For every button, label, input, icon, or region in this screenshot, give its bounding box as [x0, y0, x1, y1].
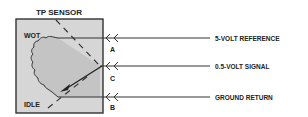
wire-label-ground: GROUND RETURN [215, 94, 273, 101]
terminal-a-label: A [110, 46, 115, 53]
terminal-a-wire [100, 34, 210, 42]
diagram-title: TP SENSOR [36, 8, 82, 17]
terminal-b-label: B [110, 104, 115, 111]
terminal-c-wire [100, 62, 210, 70]
wot-label: WOT [24, 32, 41, 39]
wire-label-5v-reference: 5-VOLT REFERENCE [215, 35, 280, 42]
terminal-b-wire [100, 93, 210, 101]
idle-label: IDLE [24, 101, 40, 108]
wire-label-signal: 0.5-VOLT SIGNAL [215, 63, 269, 70]
terminal-c-label: C [110, 75, 115, 82]
tp-sensor-diagram: TP SENSOR WOT IDLE A C B 5-VOLT REFERENC… [0, 0, 308, 117]
